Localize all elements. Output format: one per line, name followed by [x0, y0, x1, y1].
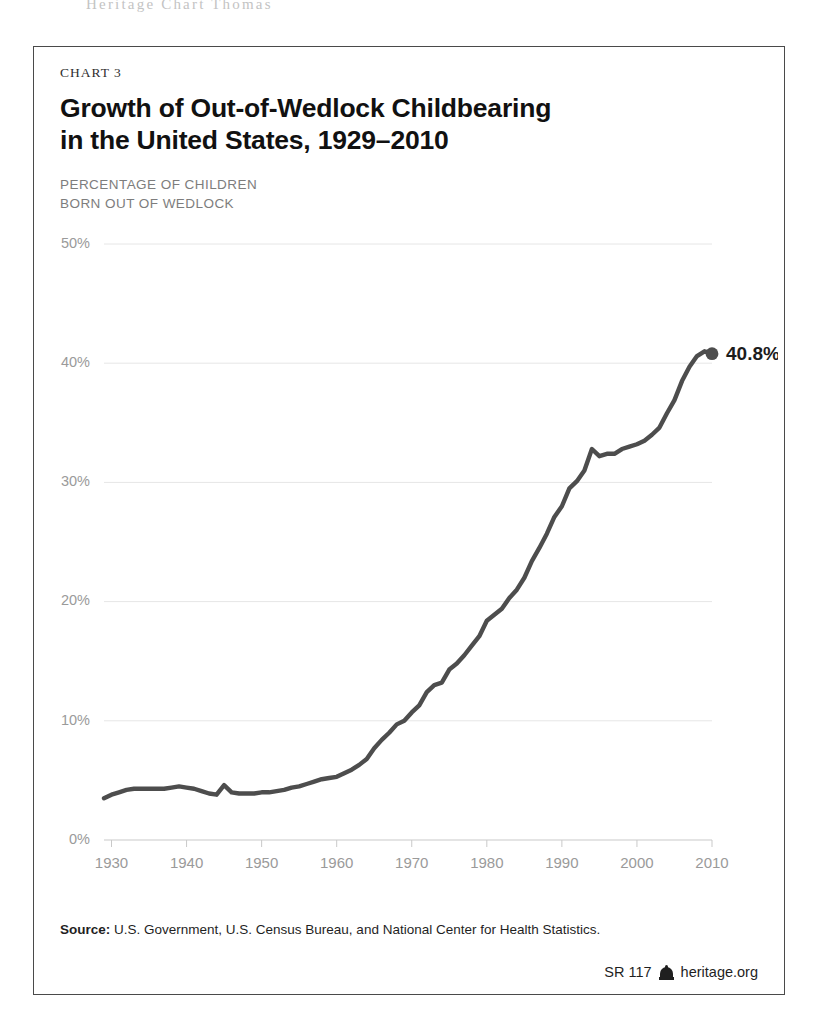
site-url: heritage.org	[681, 964, 758, 980]
y-axis-caption: PERCENTAGE OF CHILDRENBORN OUT OF WEDLOC…	[60, 175, 758, 213]
x-tickmarks-group	[112, 840, 712, 847]
heritage-bell-icon	[660, 965, 673, 980]
chart-annotation-group: 40.8%	[706, 343, 778, 364]
y-axis-tick-label: 30%	[61, 473, 90, 489]
source-label: Source:	[60, 922, 110, 937]
x-axis-labels-group: 193019401950196019701980199020002010	[95, 854, 729, 871]
x-axis-tick-label: 1980	[470, 854, 503, 871]
x-axis-tick-label: 1960	[320, 854, 353, 871]
x-axis-tick-label: 1990	[545, 854, 578, 871]
y-axis-tick-label: 40%	[61, 354, 90, 370]
y-axis-labels-group: 0%10%20%30%40%50%	[61, 235, 90, 847]
x-axis-tick-label: 2000	[620, 854, 653, 871]
endpoint-marker	[706, 347, 719, 360]
endpoint-value-label: 40.8%	[726, 343, 778, 364]
chart-svg: 0%10%20%30%40%50% 1930194019501960197019…	[42, 232, 778, 912]
y-axis-tick-label: 10%	[61, 712, 90, 728]
credit-line: SR 117 heritage.org	[60, 964, 758, 980]
y-axis-tick-label: 0%	[69, 831, 90, 847]
data-line	[104, 351, 712, 798]
chart-footer: Source: U.S. Government, U.S. Census Bur…	[60, 921, 758, 980]
chart-card: CHART 3 Growth of Out-of-Wedlock Childbe…	[33, 46, 785, 995]
source-text: U.S. Government, U.S. Census Bureau, and…	[110, 922, 600, 937]
x-axis-tick-label: 1970	[395, 854, 428, 871]
page-header-bleed-text: Heritage Chart Thomas	[86, 0, 273, 13]
y-axis-tick-label: 50%	[61, 235, 90, 251]
gridlines-group	[104, 244, 712, 840]
chart-title: Growth of Out-of-Wedlock Childbearing in…	[60, 92, 580, 157]
x-axis-tick-label: 1950	[245, 854, 278, 871]
x-axis-tick-label: 2010	[695, 854, 728, 871]
chart-card-inner: CHART 3 Growth of Out-of-Wedlock Childbe…	[34, 47, 784, 994]
source-note: Source: U.S. Government, U.S. Census Bur…	[60, 921, 758, 940]
chart-plot-area: 0%10%20%30%40%50% 1930194019501960197019…	[42, 232, 778, 912]
y-axis-tick-label: 20%	[61, 592, 90, 608]
data-series-group	[104, 351, 712, 798]
chart-kicker-label: CHART 3	[60, 65, 758, 81]
x-axis-tick-label: 1930	[95, 854, 128, 871]
report-id: SR 117	[604, 964, 651, 980]
x-axis-tick-label: 1940	[170, 854, 203, 871]
